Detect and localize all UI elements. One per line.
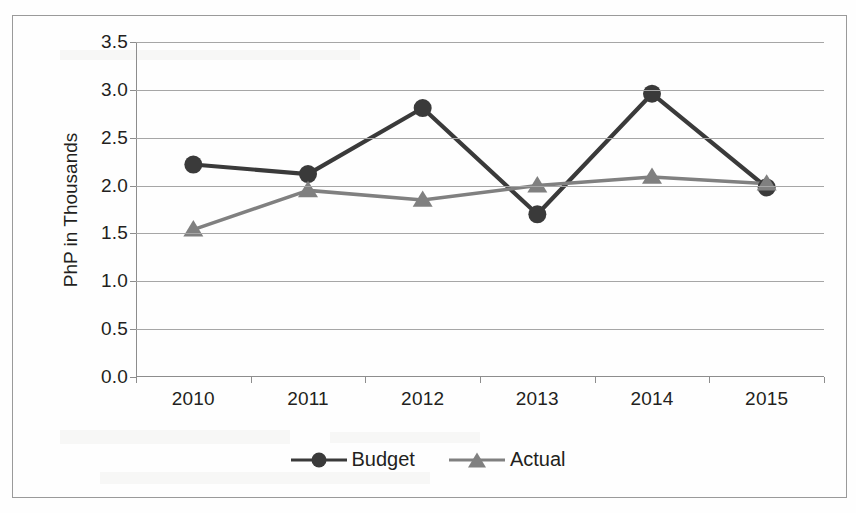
- y-axis-tick-mark: [130, 90, 136, 91]
- legend-entry-actual[interactable]: Actual: [449, 448, 566, 471]
- y-axis-tick-mark: [130, 138, 136, 139]
- series-line-budget: [193, 94, 766, 215]
- y-axis-tick-mark: [130, 42, 136, 43]
- x-axis-tick-mark: [824, 377, 825, 383]
- series-plot: [136, 42, 824, 377]
- y-axis-title-container: PhP in Thousands: [56, 42, 76, 377]
- y-axis-tick-label: 1.5: [101, 222, 128, 244]
- y-axis-tick-label: 0.0: [101, 366, 128, 388]
- plot-area: [136, 42, 824, 377]
- x-axis-tick-labels: 201020112012201320142015: [136, 388, 824, 416]
- x-axis-tick-mark: [595, 377, 596, 383]
- x-axis-tick-mark: [709, 377, 710, 383]
- data-point-budget-2010: [184, 156, 202, 174]
- x-axis-tick-label: 2012: [401, 388, 444, 410]
- x-axis-tick-mark: [251, 377, 252, 383]
- legend-circle-marker-icon: [311, 452, 326, 467]
- gridline: [136, 329, 824, 330]
- y-axis-tick-label: 2.0: [101, 175, 128, 197]
- data-point-budget-2014: [643, 85, 661, 103]
- y-axis-tick-label: 0.5: [101, 318, 128, 340]
- gridline: [136, 42, 824, 43]
- x-axis-tick-label: 2010: [172, 388, 215, 410]
- x-axis-tick-label: 2015: [745, 388, 788, 410]
- y-axis-tick-mark: [130, 233, 136, 234]
- y-axis-tick-label: 3.0: [101, 79, 128, 101]
- x-axis-tick-mark: [480, 377, 481, 383]
- gridline: [136, 90, 824, 91]
- x-axis-tick-label: 2013: [516, 388, 559, 410]
- y-axis-tick-labels: 0.00.51.01.52.02.53.03.5: [78, 42, 128, 377]
- gridline: [136, 281, 824, 282]
- legend-triangle-marker-icon: [468, 452, 486, 467]
- gridline: [136, 186, 824, 187]
- y-axis-tick-mark: [130, 329, 136, 330]
- x-axis-tick-label: 2011: [287, 388, 329, 410]
- data-point-budget-2012: [414, 99, 432, 117]
- data-point-budget-2011: [299, 165, 317, 183]
- y-axis-tick-mark: [130, 186, 136, 187]
- legend-label: Actual: [510, 448, 566, 471]
- data-point-actual-2011: [298, 181, 318, 197]
- x-axis-tick-mark: [136, 377, 137, 383]
- y-axis-tick-label: 1.0: [101, 270, 128, 292]
- x-axis-tick-label: 2014: [630, 388, 673, 410]
- gridline: [136, 233, 824, 234]
- gridline: [136, 138, 824, 139]
- chart-legend: BudgetActual: [0, 448, 856, 471]
- legend-label: Budget: [352, 448, 415, 471]
- chart-figure: PhP in Thousands 0.00.51.01.52.02.53.03.…: [0, 0, 856, 513]
- y-axis-tick-label: 2.5: [101, 127, 128, 149]
- x-axis-tick-mark: [365, 377, 366, 383]
- data-point-budget-2013: [528, 205, 546, 223]
- y-axis-tick-label: 3.5: [101, 31, 128, 53]
- legend-entry-budget[interactable]: Budget: [291, 448, 415, 471]
- y-axis-tick-mark: [130, 281, 136, 282]
- legend-swatch-budget: [291, 450, 347, 470]
- legend-swatch-actual: [449, 450, 505, 470]
